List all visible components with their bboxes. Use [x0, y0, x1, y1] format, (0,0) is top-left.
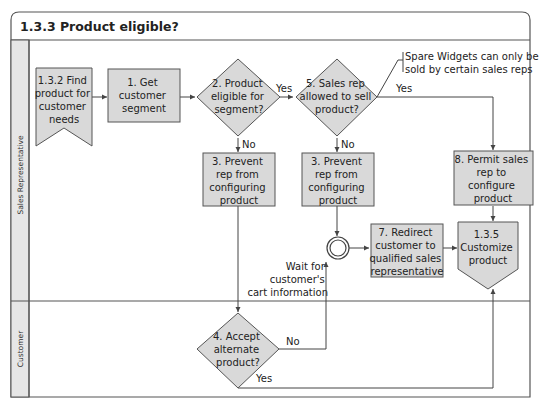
node-permit-sales-rep[interactable]: 8. Permit sales rep to configure product — [454, 151, 533, 205]
event-wait-for-cart[interactable] — [327, 237, 349, 259]
node-prevent-rep-configuring-1[interactable]: 3. Prevent rep from configuring product — [203, 153, 275, 206]
node-get-customer-segment[interactable]: 1. Get customer segment — [108, 69, 180, 122]
svg-text:4. Accept alternate: 4. Accept alternate product? — [213, 331, 263, 368]
lane-label-sales-representative: Sales Representative — [16, 135, 25, 214]
edge-label-eligible-yes: Yes — [275, 83, 292, 94]
node-prevent-rep-configuring-2[interactable]: 3. Prevent rep from configuring product — [302, 153, 374, 206]
diagram-title: 1.3.3 Product eligible? — [20, 19, 179, 34]
node-redirect-customer[interactable]: 7. Redirect customer to qualified sales … — [369, 224, 444, 277]
svg-text:2. Product eligible for: 2. Product eligible for segment? — [211, 78, 267, 115]
edge-label-accept-yes: Yes — [255, 373, 272, 384]
lane-label-customer: Customer — [16, 330, 25, 367]
edge-label-allowed-no: No — [341, 139, 355, 150]
edge-label-accept-no: No — [286, 336, 300, 347]
process-diagram: 1.3.3 Product eligible? Sales Representa… — [0, 0, 543, 405]
edge-label-allowed-yes: Yes — [395, 83, 412, 94]
edge-label-eligible-no: No — [242, 139, 256, 150]
